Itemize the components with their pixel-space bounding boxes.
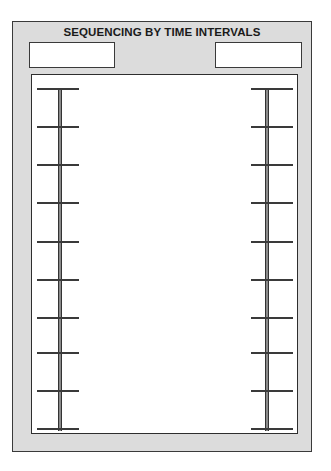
right-timeline-tick xyxy=(251,241,293,243)
organizer-frame: SEQUENCING BY TIME INTERVALS xyxy=(12,21,312,452)
diagram-title: SEQUENCING BY TIME INTERVALS xyxy=(13,26,311,38)
right-timeline-tick xyxy=(251,352,293,354)
right-timeline-tick xyxy=(251,390,293,392)
right-timeline-tick xyxy=(251,428,293,430)
left-timeline-tick xyxy=(37,428,79,430)
left-timeline-tick xyxy=(37,352,79,354)
right-timeline xyxy=(251,75,295,433)
right-timeline-tick xyxy=(251,164,293,166)
left-timeline-tick xyxy=(37,88,79,90)
left-timeline-tick xyxy=(37,241,79,243)
left-timeline-tick xyxy=(37,126,79,128)
right-timeline-bar xyxy=(265,89,269,431)
right-timeline-tick xyxy=(251,88,293,90)
left-timeline-tick xyxy=(37,202,79,204)
right-timeline-tick xyxy=(251,317,293,319)
left-timeline xyxy=(37,75,81,433)
right-timeline-tick xyxy=(251,126,293,128)
left-label-box[interactable] xyxy=(29,42,115,68)
left-timeline-tick xyxy=(37,390,79,392)
left-timeline-tick xyxy=(37,317,79,319)
right-label-box[interactable] xyxy=(215,42,302,68)
left-timeline-tick xyxy=(37,164,79,166)
right-timeline-tick xyxy=(251,279,293,281)
timeline-panel xyxy=(31,74,298,434)
left-timeline-bar xyxy=(58,89,62,431)
left-timeline-tick xyxy=(37,279,79,281)
right-timeline-tick xyxy=(251,202,293,204)
